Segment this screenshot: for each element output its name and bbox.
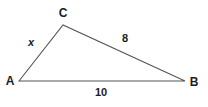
vertex-label-a: A — [6, 75, 15, 87]
vertex-label-b: B — [190, 76, 199, 88]
triangle-outline — [19, 25, 185, 81]
side-label-ab: 10 — [95, 87, 107, 98]
vertex-label-c: C — [59, 7, 68, 19]
side-label-ac: x — [28, 37, 34, 48]
triangle-figure: C A B x 8 10 — [0, 0, 208, 107]
side-label-cb: 8 — [122, 33, 128, 44]
